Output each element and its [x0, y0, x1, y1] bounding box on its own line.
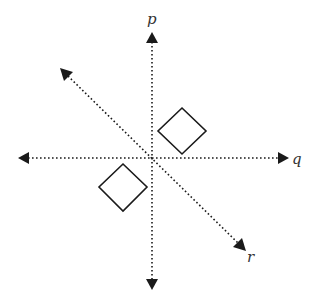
arrowhead-q-right: [278, 152, 289, 164]
arrowhead-p-bottom: [146, 279, 158, 290]
label-p: p: [147, 10, 157, 28]
square-upper-right: [158, 108, 206, 154]
line-p: [146, 32, 158, 290]
label-r: r: [247, 248, 255, 266]
square-lower-left: [99, 164, 147, 211]
label-q: q: [292, 150, 302, 168]
diagram-canvas: p q r: [0, 0, 313, 303]
arrowhead-r-lower-right: [233, 238, 246, 251]
diagram: p q r: [0, 0, 313, 303]
line-q: [18, 152, 289, 164]
arrowhead-q-left: [18, 152, 29, 164]
arrowhead-p-top: [146, 32, 158, 43]
line-r: [60, 68, 246, 251]
